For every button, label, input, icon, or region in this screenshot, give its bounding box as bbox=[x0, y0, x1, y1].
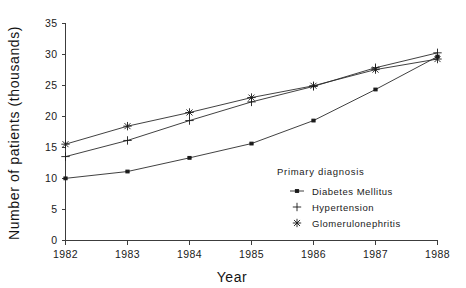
legend-title: Primary diagnosis bbox=[277, 166, 364, 177]
marker-dot bbox=[374, 88, 377, 91]
legend-entry: Hypertension bbox=[293, 202, 374, 213]
x-tick-label: 1982 bbox=[53, 248, 78, 260]
series-glomerulonephritis bbox=[61, 55, 441, 149]
y-tick-label: 15 bbox=[45, 141, 57, 153]
y-tick-label: 25 bbox=[45, 79, 57, 91]
x-axis-ticks: 1982198319841985198619871988 bbox=[53, 241, 450, 260]
y-tick-label: 35 bbox=[45, 17, 57, 29]
y-axis-ticks: 05101520253035 bbox=[45, 17, 65, 247]
x-tick-label: 1986 bbox=[301, 248, 326, 260]
marker-dot bbox=[188, 156, 191, 159]
line-chart: Number of patients (thousands) Year 0510… bbox=[0, 0, 466, 288]
chart-figure: Number of patients (thousands) Year 0510… bbox=[0, 0, 466, 288]
series-diabetes-mellitus bbox=[64, 55, 439, 180]
y-tick-label: 0 bbox=[51, 234, 57, 246]
legend: Primary diagnosis Diabetes MellitusHyper… bbox=[277, 166, 401, 229]
marker-dot bbox=[126, 170, 129, 173]
y-axis-title: Number of patients (thousands) bbox=[6, 26, 22, 240]
y-tick-label: 20 bbox=[45, 110, 57, 122]
x-tick-label: 1984 bbox=[177, 248, 202, 260]
marker-dot bbox=[250, 142, 253, 145]
legend-entry-label: Diabetes Mellitus bbox=[312, 186, 393, 197]
legend-entry-label: Glomerulonephritis bbox=[312, 218, 401, 229]
x-tick-label: 1988 bbox=[425, 248, 450, 260]
marker-dot bbox=[295, 190, 298, 193]
x-tick-label: 1985 bbox=[239, 248, 264, 260]
y-tick-label: 10 bbox=[45, 172, 57, 184]
x-axis-title: Year bbox=[217, 269, 248, 285]
legend-entry: Diabetes Mellitus bbox=[290, 186, 393, 197]
legend-entry-label: Hypertension bbox=[312, 202, 374, 213]
y-tick-label: 30 bbox=[45, 48, 57, 60]
y-tick-label: 5 bbox=[51, 203, 57, 215]
marker-dot bbox=[312, 119, 315, 122]
x-tick-label: 1987 bbox=[363, 248, 388, 260]
series-line bbox=[66, 57, 438, 179]
legend-entries: Diabetes MellitusHypertensionGlomerulone… bbox=[290, 186, 401, 229]
marker-dot bbox=[64, 177, 67, 180]
x-tick-label: 1983 bbox=[115, 248, 140, 260]
legend-entry: Glomerulonephritis bbox=[293, 218, 401, 229]
series-layer bbox=[61, 49, 441, 180]
